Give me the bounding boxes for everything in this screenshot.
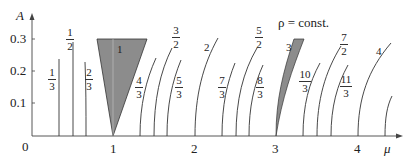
- y-tick-label: 0.2: [10, 64, 26, 77]
- label-7-3: 73: [218, 75, 226, 100]
- y-tick-label: 0.1: [10, 96, 26, 109]
- curve-3-2: [154, 48, 172, 136]
- label-tongue-1: 1: [117, 44, 123, 55]
- curve-4: [358, 43, 391, 136]
- label-7-2: 72: [340, 32, 348, 57]
- x-axis-label: μ: [384, 142, 391, 155]
- x-tick-label: 3: [272, 142, 279, 155]
- label-5-2: 52: [255, 25, 263, 50]
- y-axis-label: A: [16, 9, 24, 22]
- label-10-3: 103: [299, 69, 311, 94]
- label-2-3: 23: [85, 67, 93, 92]
- label-tongue-3: 3: [286, 42, 292, 53]
- label-1-3: 13: [48, 67, 56, 92]
- x-axis-arrow-icon: [396, 134, 403, 139]
- label-11-3: 113: [340, 74, 352, 99]
- label-8-3: 83: [256, 75, 264, 100]
- x-tick-label: 2: [191, 142, 198, 155]
- rho-const-annotation: ρ = const.: [278, 16, 329, 29]
- x-tick-label: 1: [110, 142, 117, 155]
- label-5-3: 53: [175, 75, 183, 100]
- arnold-tongue-diagram: A 0.3 0.2 0.1 0 1 2 3 4 μ ρ = const. 13 …: [0, 0, 409, 161]
- label-4: 4: [376, 46, 382, 57]
- label-3-2: 32: [172, 25, 180, 50]
- curve-13-3: [385, 96, 392, 136]
- label-2: 2: [204, 42, 210, 53]
- origin-label: 0: [22, 140, 29, 153]
- y-tick-label: 0.3: [10, 32, 26, 45]
- label-4-3: 43: [135, 75, 143, 100]
- x-tick-label: 4: [354, 142, 361, 155]
- y-axis-arrow-icon: [30, 13, 35, 20]
- label-1-2: 12: [66, 27, 74, 52]
